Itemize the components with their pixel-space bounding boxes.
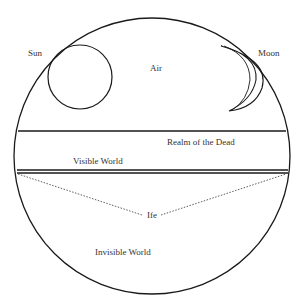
label-visible-world: Visible World <box>73 157 123 166</box>
ife-dotted-left <box>18 174 142 215</box>
label-sun: Sun <box>28 49 42 58</box>
sun-circle <box>48 45 112 109</box>
ife-dotted-right <box>161 174 286 215</box>
label-ife: Ife <box>147 211 157 220</box>
cosmology-diagram <box>0 0 301 307</box>
label-moon: Moon <box>258 49 280 58</box>
label-air: Air <box>150 64 162 73</box>
label-realm-of-the-dead: Realm of the Dead <box>167 138 235 147</box>
label-invisible-world: Invisible World <box>95 248 151 257</box>
